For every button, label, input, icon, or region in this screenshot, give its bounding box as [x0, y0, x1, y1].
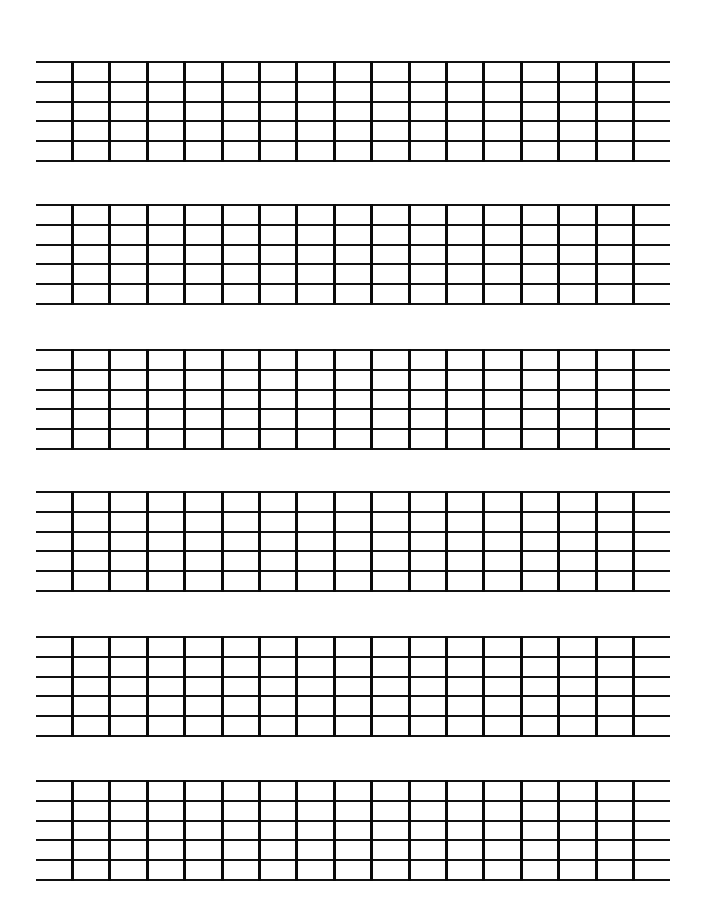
string-line [36, 820, 670, 822]
fret-line [370, 349, 373, 450]
fret-line [445, 204, 448, 305]
fret-line [632, 780, 635, 881]
fret-line [221, 61, 224, 162]
fret-line [258, 61, 261, 162]
fret-line [108, 349, 111, 450]
fret-line [71, 204, 74, 305]
string-line [36, 531, 670, 533]
string-line [36, 550, 670, 552]
fret-line [258, 349, 261, 450]
string-line [36, 349, 670, 351]
fret-line [557, 61, 560, 162]
fret-line [445, 491, 448, 592]
string-line [36, 590, 670, 592]
string-line [36, 448, 670, 450]
fret-line [71, 491, 74, 592]
fret-line [295, 204, 298, 305]
fret-line [445, 780, 448, 881]
string-line [36, 511, 670, 513]
fret-line [333, 61, 336, 162]
fret-line [108, 61, 111, 162]
string-line [36, 879, 670, 881]
string-line [36, 263, 670, 265]
fret-line [108, 204, 111, 305]
fret-line [295, 349, 298, 450]
fret-line [333, 491, 336, 592]
fret-line [258, 491, 261, 592]
fret-line [370, 204, 373, 305]
fret-line [408, 61, 411, 162]
fret-line [295, 780, 298, 881]
fret-line [595, 491, 598, 592]
fret-line [258, 204, 261, 305]
fret-line [183, 491, 186, 592]
fret-line [258, 636, 261, 737]
fret-line [557, 204, 560, 305]
string-line [36, 389, 670, 391]
string-line [36, 735, 670, 737]
fret-line [632, 204, 635, 305]
fret-line [183, 349, 186, 450]
fret-line [482, 61, 485, 162]
fret-line [482, 780, 485, 881]
fret-line [595, 61, 598, 162]
fret-line [408, 491, 411, 592]
fret-line [482, 204, 485, 305]
string-line [36, 204, 670, 206]
fret-line [146, 61, 149, 162]
fret-line [482, 349, 485, 450]
fret-line [520, 349, 523, 450]
fret-line [445, 636, 448, 737]
string-line [36, 224, 670, 226]
fret-line [408, 349, 411, 450]
fret-line [183, 780, 186, 881]
fret-line [71, 349, 74, 450]
fret-line [632, 349, 635, 450]
string-line [36, 859, 670, 861]
string-line [36, 715, 670, 717]
fret-line [445, 349, 448, 450]
fret-line [333, 204, 336, 305]
string-line [36, 491, 670, 493]
fret-line [221, 349, 224, 450]
fret-line [221, 636, 224, 737]
string-line [36, 428, 670, 430]
fret-line [557, 349, 560, 450]
fret-line [146, 780, 149, 881]
fret-line [146, 491, 149, 592]
fret-line [146, 636, 149, 737]
string-line [36, 101, 670, 103]
fret-line [71, 61, 74, 162]
string-line [36, 61, 670, 63]
fret-line [595, 780, 598, 881]
fret-line [295, 636, 298, 737]
fret-line [632, 636, 635, 737]
string-line [36, 369, 670, 371]
fret-line [370, 780, 373, 881]
fret-line [557, 636, 560, 737]
fret-line [146, 204, 149, 305]
fret-line [183, 204, 186, 305]
fret-line [108, 636, 111, 737]
fret-line [108, 491, 111, 592]
fret-line [333, 780, 336, 881]
fret-line [632, 61, 635, 162]
fret-line [520, 491, 523, 592]
fret-line [370, 61, 373, 162]
string-line [36, 81, 670, 83]
fret-line [520, 780, 523, 881]
fret-line [258, 780, 261, 881]
string-line [36, 408, 670, 410]
fret-line [333, 636, 336, 737]
fretboard-sheet [0, 0, 705, 923]
fret-line [221, 204, 224, 305]
string-line [36, 160, 670, 162]
fret-line [557, 780, 560, 881]
fret-line [221, 780, 224, 881]
fret-line [520, 204, 523, 305]
fret-line [520, 61, 523, 162]
fret-line [295, 61, 298, 162]
fret-line [221, 491, 224, 592]
fret-line [408, 636, 411, 737]
string-line [36, 780, 670, 782]
